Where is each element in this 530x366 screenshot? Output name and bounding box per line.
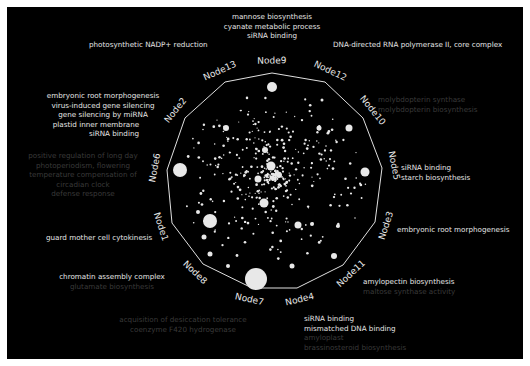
gene-point (275, 188, 277, 190)
gene-point (268, 158, 271, 161)
gene-point (288, 180, 290, 182)
gene-point (215, 165, 216, 166)
annotation-text: siRNA binding (401, 163, 470, 173)
gene-point (281, 176, 283, 178)
gene-point (256, 127, 257, 128)
gene-point (261, 165, 264, 168)
gene-point (255, 148, 257, 150)
gene-point (236, 154, 238, 156)
gene-point (350, 192, 352, 194)
gene-point (233, 183, 235, 185)
gene-point (274, 169, 277, 172)
annotation-text: photosynthetic NADP+ reduction (89, 40, 208, 50)
gene-point (278, 128, 280, 130)
node-label-node13: Node13 (202, 59, 238, 83)
gene-point (253, 157, 254, 158)
gene-point (279, 185, 281, 187)
gene-point (208, 252, 213, 257)
gene-point (269, 248, 272, 251)
gene-point (265, 168, 267, 170)
gene-point (334, 193, 336, 195)
gene-point (249, 131, 251, 133)
gene-point (346, 125, 353, 132)
gene-point (203, 220, 205, 222)
annotation-node1: guard mother cell cytokinesis (46, 233, 152, 243)
gene-point (215, 229, 216, 230)
gene-point (288, 139, 290, 141)
gene-point (226, 264, 230, 268)
gene-point (242, 149, 244, 151)
gene-point (310, 167, 312, 169)
gene-point (201, 203, 204, 206)
gene-point (329, 158, 331, 160)
gene-point (263, 146, 264, 147)
gene-point (227, 138, 230, 141)
annotation-text: positive regulation of long day (23, 151, 143, 161)
gene-point (295, 168, 297, 170)
gene-point (361, 197, 363, 199)
gene-point (258, 224, 259, 225)
gene-point (285, 185, 287, 187)
gene-point (365, 183, 367, 185)
node-label-node9: Node9 (257, 55, 287, 65)
gene-point (277, 257, 280, 260)
gene-point (202, 190, 204, 192)
gene-point (289, 174, 291, 176)
annotation-text: embryonic root morphogenesis (43, 91, 163, 101)
gene-point (282, 171, 284, 173)
gene-point (286, 217, 288, 219)
gene-point (333, 160, 335, 162)
gene-point (292, 131, 294, 133)
gene-point (286, 128, 288, 130)
gene-point (261, 184, 263, 186)
gene-point (291, 204, 293, 206)
annotation-text: glutamate biosynthesis (57, 282, 167, 292)
gene-point (303, 167, 305, 169)
gene-point (311, 115, 313, 117)
gene-point (286, 112, 287, 113)
gene-point (245, 199, 247, 201)
annotation-text: coenzyme F420 hydrogenase (113, 325, 253, 335)
gene-point (248, 195, 250, 197)
annotation-text: plastid inner membrane (29, 120, 163, 130)
gene-point (331, 128, 334, 131)
gene-point (230, 152, 231, 153)
gene-point (290, 264, 295, 269)
gene-point (302, 174, 304, 176)
annotation-node2: embryonic root morphogenesis virus-induc… (43, 91, 163, 139)
gene-point (355, 152, 356, 153)
gene-point (187, 155, 190, 158)
annotation-text: siRNA binding (304, 314, 406, 324)
gene-point (318, 241, 321, 244)
annotation-node11: amylopectin biosynthesis maltose synthas… (363, 277, 455, 296)
gene-point (272, 175, 274, 177)
annotation-node6: positive regulation of long day photoper… (23, 151, 143, 199)
gene-point (297, 179, 299, 181)
annotation-text: siRNA binding (65, 129, 163, 139)
gene-point (274, 179, 276, 181)
gene-point (266, 163, 268, 165)
gene-point (270, 209, 272, 211)
gene-point (323, 158, 324, 159)
gene-point (301, 119, 303, 121)
gene-point (324, 149, 326, 151)
gene-point (244, 241, 247, 244)
gene-point (264, 179, 266, 181)
gene-point (289, 172, 290, 173)
gene-point (318, 152, 320, 154)
gene-point (281, 167, 283, 169)
annotation-text: defense response (23, 189, 143, 199)
gene-point (283, 157, 286, 160)
gene-point (258, 203, 260, 205)
gene-point (248, 187, 250, 189)
gene-point (309, 104, 312, 107)
gene-point (222, 173, 223, 174)
gene-point (222, 144, 225, 147)
gene-point (279, 165, 281, 167)
gene-point (349, 162, 352, 165)
node-label-node12: Node12 (312, 59, 348, 83)
node-label-node4: Node4 (284, 291, 315, 307)
gene-point (263, 183, 265, 185)
gene-point (221, 157, 223, 159)
gene-point (206, 164, 208, 166)
